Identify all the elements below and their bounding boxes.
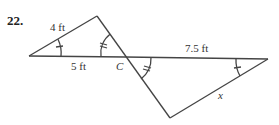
label-4ft: 4 ft xyxy=(50,21,65,33)
angle-arc-left xyxy=(58,39,61,56)
double-tick-top-1 xyxy=(100,43,107,45)
triangles-diagram xyxy=(0,0,279,125)
side-5ft xyxy=(29,56,125,57)
label-x: x xyxy=(218,89,223,101)
transversal xyxy=(97,16,170,118)
figure-canvas: 22. 4 ft 5 ft C xyxy=(0,0,279,125)
label-7-5ft: 7.5 ft xyxy=(185,42,208,54)
side-7-5ft xyxy=(125,57,268,59)
angle-arc-top xyxy=(101,34,110,56)
label-5ft: 5 ft xyxy=(71,60,86,72)
single-tick-left xyxy=(56,46,63,47)
label-vertex-c: C xyxy=(116,60,123,72)
single-tick-right xyxy=(234,67,241,68)
